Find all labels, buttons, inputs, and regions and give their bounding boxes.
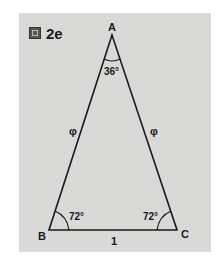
- triangle-diagram: [0, 0, 223, 267]
- side-bc-label: 1: [111, 236, 117, 247]
- angle-b-label: 72°: [69, 212, 84, 222]
- angle-c-label: 72°: [143, 212, 158, 222]
- angle-arc-b: [55, 211, 69, 230]
- angle-arc-a: [104, 59, 120, 61]
- vertex-c-label: C: [181, 229, 189, 240]
- angle-a-label: 36°: [104, 67, 119, 77]
- angle-arc-c: [157, 211, 171, 230]
- vertex-a-label: A: [108, 22, 116, 33]
- side-ab-label: φ: [69, 126, 77, 137]
- side-ac-label: φ: [150, 126, 158, 137]
- vertex-b-label: B: [38, 231, 46, 242]
